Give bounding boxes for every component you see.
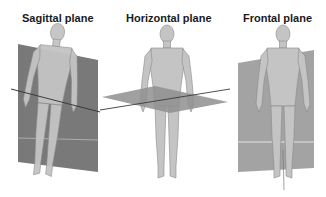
horizontal-panel: [100, 25, 230, 178]
sagittal-panel: [11, 21, 100, 179]
frontal-panel: [238, 25, 314, 190]
anatomical-planes-diagram: [0, 0, 326, 197]
